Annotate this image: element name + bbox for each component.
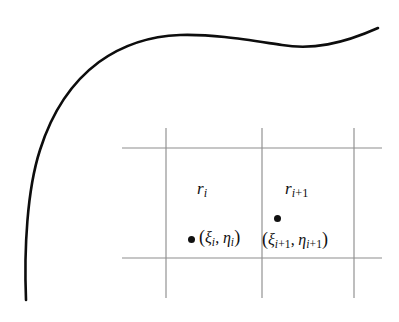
close-paren: )	[234, 227, 240, 247]
xi-subscript-plus: +	[278, 238, 285, 250]
domain-boundary-curve	[25, 28, 378, 300]
grid-group	[122, 128, 382, 298]
cell-label-r-i-symbol: r	[197, 179, 204, 198]
xi-symbol: ξ	[205, 229, 212, 246]
sample-point-label-i: (ξi, ηi)	[199, 228, 240, 249]
cell-label-r-i-plus-1: ri+1	[285, 180, 309, 200]
figure-vector-layer	[0, 0, 399, 322]
cell-label-r-i-plus-1-subscript: i+1	[292, 186, 309, 200]
close-paren: )	[322, 229, 328, 249]
cell-label-r-i-subscript: i	[204, 186, 208, 200]
xi-symbol: ξ	[268, 231, 275, 248]
xi-subscript: i+1	[275, 238, 291, 250]
eta-subscript: i+1	[306, 238, 322, 250]
cell-label-r-i-plus-1-symbol: r	[285, 179, 292, 198]
sample-point-label-i-plus-1: (ξi+1, ηi+1)	[262, 230, 328, 251]
figure-canvas: ri ri+1 (ξi, ηi) (ξi+1, ηi+1)	[0, 0, 399, 322]
coord-comma: ,	[291, 231, 296, 248]
eta-symbol: η	[223, 229, 231, 246]
subscript-one: 1	[302, 186, 308, 200]
sample-point-dot-i-plus-1	[274, 215, 281, 222]
sample-point-dot-i	[188, 236, 195, 243]
coord-comma: ,	[215, 229, 220, 246]
cell-label-r-i: ri	[197, 180, 207, 200]
